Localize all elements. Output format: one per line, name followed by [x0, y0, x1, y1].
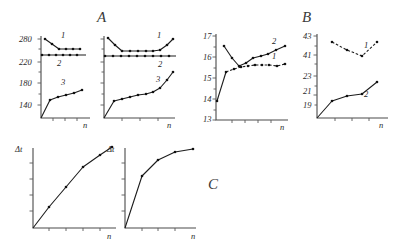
y-tick-label: 180: [19, 78, 33, 88]
panel-label-b: B: [302, 9, 311, 25]
y-tick-label: 43: [303, 31, 312, 41]
x-axis-label: n: [167, 120, 171, 130]
plot-b-left: 17 16 15 14 13 n 2 1: [203, 31, 288, 132]
series-points: [141, 148, 195, 178]
curve-label-2: 2: [57, 58, 62, 68]
y-tick-label: 21: [303, 86, 312, 96]
series-points: [48, 146, 114, 209]
panel-label-a: A: [96, 9, 107, 25]
series-points-3: [49, 89, 84, 102]
series-points-3: [113, 71, 175, 103]
series-line-1-rise: [217, 72, 226, 101]
y-axis-label: Δt: [14, 144, 23, 154]
curve-label-2: 2: [158, 59, 163, 69]
panel-label-c: C: [208, 176, 219, 192]
axis-lines: [216, 34, 288, 120]
series-line: [125, 149, 193, 228]
plot-a-right: n 1 2 3: [101, 30, 177, 130]
plot-c-left: Δt n: [14, 144, 116, 241]
axis-lines: [104, 36, 175, 118]
plot-c-right: Δt n: [106, 144, 196, 241]
y-tick-label: 140: [19, 100, 33, 110]
y-tick-label: 13: [203, 114, 212, 124]
series-points-1: [107, 37, 175, 53]
series-line: [33, 147, 112, 228]
series-line-1: [108, 38, 173, 51]
series-points-1: [216, 63, 287, 103]
curve-label-3: 3: [60, 77, 65, 87]
curve-label-1: 1: [61, 30, 65, 40]
x-axis-label: n: [107, 231, 111, 241]
plot-b-right: 43 41 23 21 19 n 1 2: [303, 31, 388, 130]
y-tick-label: 15: [203, 73, 212, 83]
series-line-3: [41, 90, 82, 118]
curve-label-2: 2: [364, 89, 369, 99]
curve-label-1: 1: [364, 40, 368, 50]
y-tick-label: 220: [19, 57, 33, 67]
axis-lines: [33, 148, 116, 228]
x-axis-label: n: [83, 120, 87, 130]
y-tick-label: 14: [203, 94, 212, 104]
y-tick-label: 23: [303, 71, 312, 81]
y-tick-label: 16: [203, 52, 212, 62]
y-tick-label: 19: [303, 100, 312, 110]
series-line-1: [332, 42, 377, 56]
plot-a-left: 280 220 180 140 n 1 2 3: [19, 30, 90, 130]
y-tick-label: 41: [303, 50, 312, 60]
series-points-1: [331, 41, 379, 58]
axis-lines: [125, 148, 196, 228]
curve-label-2: 2: [272, 36, 277, 46]
curve-label-1: 1: [272, 51, 276, 61]
x-axis-label: n: [191, 231, 195, 241]
series-line-1: [45, 39, 80, 49]
y-axis-label: Δt: [106, 144, 115, 154]
x-axis-label: n: [379, 120, 383, 130]
y-tick-label: 17: [203, 31, 212, 41]
curve-label-3: 3: [155, 74, 160, 84]
figure-canvas: A 280 220 180 140 n: [0, 0, 405, 245]
series-line-2: [317, 82, 377, 118]
curve-label-1: 1: [157, 30, 161, 40]
series-points-2: [104, 55, 171, 58]
y-tick-label: 280: [19, 34, 33, 44]
x-axis-label: n: [280, 122, 284, 132]
